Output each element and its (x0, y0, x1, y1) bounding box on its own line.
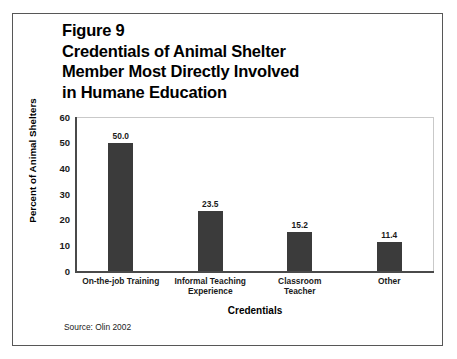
y-axis-tick-label: 40 (46, 164, 70, 174)
figure-title: Figure 9 Credentials of Animal Shelter M… (62, 20, 432, 102)
bar (287, 232, 312, 271)
figure-container: Figure 9 Credentials of Animal Shelter M… (0, 0, 457, 359)
bar (198, 211, 223, 271)
y-axis-tick-label: 30 (46, 190, 70, 200)
y-axis-tick-label: 60 (46, 113, 70, 123)
x-axis-category-label: Other (344, 276, 434, 286)
source-note: Source: Olin 2002 (64, 322, 131, 332)
x-axis-line (75, 271, 434, 273)
bar (377, 242, 402, 271)
y-axis-tick-labels: 6050403020100 (44, 0, 70, 359)
x-axis-title: Credentials (76, 305, 434, 316)
y-axis-title: Percent of Animal Shelters (27, 81, 38, 241)
bar-value-label: 11.4 (364, 231, 414, 240)
x-axis-category-label: Classroom Teacher (255, 276, 345, 296)
y-axis-tick-label: 20 (46, 215, 70, 225)
bar-value-label: 23.5 (185, 200, 235, 209)
bar (108, 143, 133, 271)
y-axis-tick-label: 0 (46, 267, 70, 277)
x-axis-category-label: Informal Teaching Experience (165, 276, 255, 296)
bar-value-label: 50.0 (96, 132, 146, 141)
x-axis-category-label: On-the-job Training (76, 276, 166, 286)
bar-value-label: 15.2 (275, 221, 325, 230)
y-axis-tick-label: 10 (46, 241, 70, 251)
y-axis-tick-label: 50 (46, 138, 70, 148)
